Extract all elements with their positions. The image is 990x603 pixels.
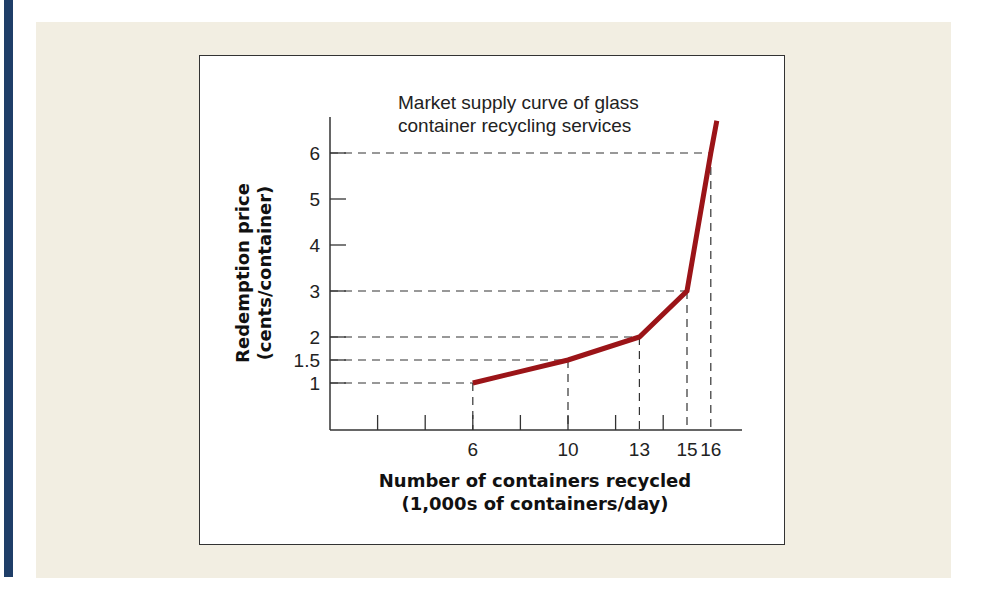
y-tick-label: 3 bbox=[309, 281, 320, 302]
supply-curve-chart: 610131516 11.523456 Market supply curve … bbox=[0, 0, 990, 603]
y-tick-label: 6 bbox=[309, 143, 320, 164]
y-tick-label: 1 bbox=[309, 373, 320, 394]
y-axis-title-line-2: (cents/container) bbox=[254, 186, 275, 361]
chart-title-line-1: Market supply curve of glass bbox=[398, 92, 639, 113]
x-tick-label: 16 bbox=[700, 439, 721, 460]
supply-curve-line bbox=[473, 121, 717, 383]
x-axis-title-line-1: Number of containers recycled bbox=[379, 470, 691, 491]
chart-title-line-2: container recycling services bbox=[398, 115, 631, 136]
x-tick-label: 10 bbox=[557, 439, 578, 460]
dashed-guide-lines bbox=[330, 153, 711, 430]
y-tick-label: 2 bbox=[309, 327, 320, 348]
y-tick-label: 5 bbox=[309, 189, 320, 210]
x-tick-label: 13 bbox=[629, 439, 650, 460]
y-axis-title-line-1: Redemption price bbox=[232, 183, 253, 363]
y-axis-ticks: 11.523456 bbox=[294, 143, 346, 394]
x-tick-label: 6 bbox=[468, 439, 479, 460]
x-axis-ticks: 610131516 bbox=[378, 415, 722, 460]
x-axis-title-line-2: (1,000s of containers/day) bbox=[401, 493, 668, 514]
x-tick-label: 15 bbox=[676, 439, 697, 460]
y-tick-label: 4 bbox=[309, 235, 320, 256]
y-tick-label: 1.5 bbox=[294, 350, 320, 371]
